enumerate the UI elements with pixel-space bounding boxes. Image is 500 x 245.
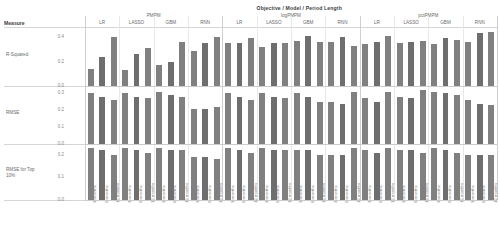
bar-0-7-0 [328, 42, 334, 86]
period-label-0-0: 3 months [92, 185, 97, 203]
bar-1-8-2 [385, 92, 391, 144]
bar-0-9-1 [408, 42, 414, 86]
period-label-6-1: 6 months [310, 185, 315, 203]
bar-1-11-0 [465, 100, 471, 144]
small-multiples-bar-chart: Objective / Model / Period LengthMeasure… [0, 0, 500, 245]
period-label-7-2: 12 months [356, 183, 361, 203]
group-separator [394, 16, 395, 200]
period-label-5-1: 6 months [275, 185, 280, 203]
bar-1-3-0 [191, 109, 197, 144]
bar-0-2-0 [156, 65, 162, 86]
period-label-2-0: 3 months [161, 185, 166, 203]
period-label-10-1: 6 months [447, 185, 452, 203]
bar-0-1-1 [134, 54, 140, 86]
bar-0-7-1 [340, 37, 346, 86]
bar-1-7-0 [328, 102, 334, 144]
bar-1-1-1 [134, 97, 140, 144]
bar-0-11-2 [488, 32, 494, 86]
bar-1-0-2 [111, 100, 117, 144]
model-label-pmpm-rnn: RNN [188, 20, 222, 25]
bar-0-0-2 [111, 37, 117, 86]
bar-1-4-2 [248, 100, 254, 144]
model-label-pctpmpm-rnn: RNN [463, 20, 497, 25]
bar-0-0-0 [88, 69, 94, 86]
bar-0-10-2 [454, 40, 460, 86]
period-label-4-2: 12 months [253, 183, 258, 203]
bar-1-6-2 [317, 102, 323, 144]
period-label-9-0: 3 months [401, 185, 406, 203]
group-separator [291, 16, 292, 200]
bar-0-10-1 [443, 38, 449, 86]
period-label-4-0: 3 months [230, 185, 235, 203]
bar-0-3-0 [191, 51, 197, 86]
bar-0-8-1 [374, 42, 380, 86]
bar-1-3-1 [202, 109, 208, 144]
period-label-0-1: 6 months [104, 185, 109, 203]
model-label-pctpmpm-lr: LR [360, 20, 394, 25]
bar-1-5-2 [282, 98, 288, 144]
period-label-0-2: 12 months [115, 183, 120, 203]
bar-0-4-1 [237, 43, 243, 86]
bar-1-8-0 [362, 98, 368, 144]
bar-1-2-2 [179, 97, 185, 144]
period-label-1-2: 12 months [150, 183, 155, 203]
bar-0-3-1 [202, 43, 208, 86]
bar-1-11-2 [488, 105, 494, 144]
y-tick-1-3: 0.3 [42, 90, 64, 95]
period-label-5-0: 3 months [264, 185, 269, 203]
row-label-measure-2: RMSE for Top 10% [6, 167, 42, 179]
bar-1-0-1 [99, 97, 105, 144]
bar-0-6-0 [294, 41, 300, 86]
y-tick-0-0: 0.0 [42, 83, 64, 88]
bar-0-5-2 [282, 43, 288, 86]
period-label-1-1: 6 months [138, 185, 143, 203]
model-label-pmpm-lr: LR [85, 20, 119, 25]
bar-0-1-0 [122, 70, 128, 86]
bar-0-6-2 [317, 42, 323, 86]
group-separator [325, 16, 326, 200]
y-tick-2-2: 0.2 [42, 152, 64, 157]
bar-1-10-1 [443, 93, 449, 144]
period-label-1-0: 3 months [127, 185, 132, 203]
period-label-3-0: 3 months [195, 185, 200, 203]
y-tick-1-0: 0.0 [42, 141, 64, 146]
group-separator [463, 16, 464, 200]
bar-1-3-2 [214, 107, 220, 144]
bar-0-5-1 [271, 43, 277, 86]
bar-0-11-1 [477, 33, 483, 86]
group-separator [257, 16, 258, 200]
bar-1-8-1 [374, 102, 380, 144]
y-tick-2-1: 0.1 [42, 174, 64, 179]
bar-1-10-2 [454, 95, 460, 144]
group-separator [360, 16, 361, 200]
group-separator [188, 16, 189, 200]
bar-1-4-1 [237, 97, 243, 144]
header-rule [4, 27, 497, 28]
chart-title: Objective / Model / Period Length [199, 5, 399, 11]
model-label-pctpmpm-gbm: GBM [428, 20, 462, 25]
period-label-10-0: 3 months [436, 185, 441, 203]
group-separator [154, 16, 155, 200]
bar-1-0-0 [88, 93, 94, 144]
bar-0-9-0 [397, 43, 403, 86]
row-label-measure-0: R-Squared [6, 52, 42, 58]
period-label-7-1: 6 months [344, 185, 349, 203]
bar-1-6-1 [305, 97, 311, 144]
period-label-8-2: 12 months [390, 183, 395, 203]
group-separator [222, 16, 223, 200]
bar-1-11-1 [477, 104, 483, 145]
bar-1-4-0 [225, 93, 231, 144]
group-separator [428, 16, 429, 200]
bar-0-4-2 [248, 38, 254, 86]
bar-0-8-0 [362, 44, 368, 86]
bar-0-3-2 [214, 37, 220, 86]
model-label-pmpm-gbm: GBM [154, 20, 188, 25]
bar-0-1-2 [145, 48, 151, 86]
bar-1-2-1 [168, 95, 174, 144]
bar-1-9-0 [397, 97, 403, 144]
bar-1-10-0 [431, 92, 437, 144]
bar-1-6-0 [294, 93, 300, 144]
y-tick-2-0: 0.0 [42, 197, 64, 202]
bar-0-9-2 [420, 41, 426, 86]
bar-1-9-1 [408, 98, 414, 144]
